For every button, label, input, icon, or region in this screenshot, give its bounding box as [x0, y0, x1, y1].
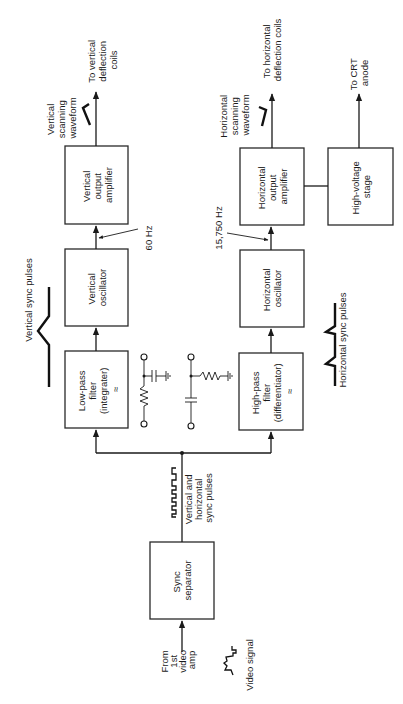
combined-sync-pulses-label: Vertical and horizontal sync pulses — [183, 472, 214, 524]
horizontal-sawtooth-icon — [259, 107, 266, 126]
horizontal-freq-pointer — [227, 233, 268, 240]
svg-text:Horizontal oscillator: Horizontal oscillator — [261, 266, 283, 311]
block-label-line: Horizontal — [256, 166, 267, 209]
label-line: Horizontal — [218, 95, 229, 138]
video-signal-icon — [224, 646, 236, 675]
to-crt-anode-label: To CRT anode — [348, 56, 370, 91]
filter-symbol: ≈ — [110, 387, 121, 392]
vertical-oscillator-block: Vertical oscillator — [65, 249, 128, 326]
label-line: sync pulses — [203, 473, 214, 523]
label-line: To CRT — [348, 58, 359, 90]
sync-separator-block: Sync separator — [150, 542, 214, 619]
block-label-line: oscillator — [272, 270, 283, 308]
block-label-line: High-pass — [250, 371, 261, 414]
resistor-icon — [140, 376, 148, 421]
label-line: To vertical — [86, 40, 97, 83]
high-pass-filter-block: High-pass filter (differentiator) ≈ — [239, 353, 303, 430]
filter-symbol: ≈ — [284, 389, 295, 394]
vertical-freq-pointer — [99, 229, 138, 238]
high-voltage-stage-block: High-voltage stage — [328, 148, 393, 225]
video-signal-label: Video signal — [244, 639, 255, 691]
svg-text:Vertical output am: Vertical output amplifier — [81, 167, 114, 203]
block-label-line: oscillator — [97, 269, 108, 307]
terminal-icon — [188, 354, 194, 360]
label-line: scanning — [229, 97, 240, 135]
horizontal-oscillator-block: Horizontal oscillator — [240, 250, 304, 327]
label-line: deflection — [97, 41, 108, 82]
vertical-output-amplifier-block: Vertical output amplifier — [65, 146, 128, 224]
label-line: deflection coils — [272, 19, 283, 82]
block-label-line: Low-pass — [76, 370, 87, 411]
resistor-icon — [191, 372, 228, 380]
combined-sync-pulses-icon — [172, 468, 176, 517]
block-label-line: (integrater) — [98, 368, 109, 414]
vertical-scanning-waveform-label: Vertical scanning waveform — [45, 97, 78, 139]
label-line: waveform — [67, 97, 78, 139]
block-label-line: amplifier — [103, 167, 114, 203]
label-line: To horizontal — [261, 24, 272, 78]
horizontal-output-amplifier-block: Horizontal output amplifier — [240, 148, 304, 225]
from-video-amp-label: From 1st video amp — [159, 647, 197, 672]
label-line: Vertical — [45, 104, 56, 135]
label-line: amp — [186, 651, 197, 669]
block-diagram: Vertical output amplifier Horizontal out… — [0, 0, 403, 704]
vertical-sawtooth-icon — [83, 104, 90, 125]
terminal-icon — [141, 354, 147, 360]
horizontal-scanning-waveform-label: Horizontal scanning waveform — [218, 92, 251, 137]
block-label-line: filter — [261, 384, 272, 402]
vertical-sync-pulse-icon — [38, 287, 49, 387]
terminal-icon — [188, 423, 194, 429]
block-label-line: (differentiator) — [272, 363, 283, 422]
junction-dot — [180, 451, 184, 455]
horizontal-sync-pulse-icon — [326, 303, 335, 386]
block-label-line: Vertical — [81, 171, 92, 202]
block-label-line: stage — [361, 175, 372, 198]
label-line: anode — [359, 60, 370, 86]
block-label-line: filter — [87, 382, 98, 400]
block-label-line: amplifier — [278, 169, 289, 205]
label-line: scanning — [56, 100, 67, 138]
vertical-sync-pulses-label: Vertical sync pulses — [23, 258, 34, 342]
differentiator-rc-network — [185, 354, 232, 429]
block-label-line: Vertical — [86, 273, 97, 304]
label-line: waveform — [240, 94, 251, 136]
block-label-line: output — [92, 173, 103, 200]
label-line: coils — [108, 50, 119, 69]
integrator-rc-network — [140, 354, 170, 427]
block-label-line: Horizontal — [261, 268, 272, 311]
block-label-line: High-voltage — [350, 161, 361, 214]
horizontal-freq-label: 15,750 Hz — [213, 206, 224, 250]
to-horizontal-coils-label: To horizontal deflection coils — [261, 19, 283, 82]
block-label-line: separator — [182, 560, 193, 600]
terminal-icon — [141, 421, 147, 427]
vertical-freq-label: 60 Hz — [143, 225, 154, 250]
to-vertical-coils-label: To vertical deflection coils — [86, 37, 119, 82]
svg-text:Vertical oscillator: Vertical oscillator — [86, 269, 108, 307]
block-label-line: output — [267, 174, 278, 201]
block-label-line: Sync — [171, 571, 182, 592]
horizontal-sync-pulses-label: Horizontal sync pulses — [337, 292, 348, 387]
low-pass-filter-block: Low-pass filter (integrater) ≈ — [65, 351, 128, 428]
